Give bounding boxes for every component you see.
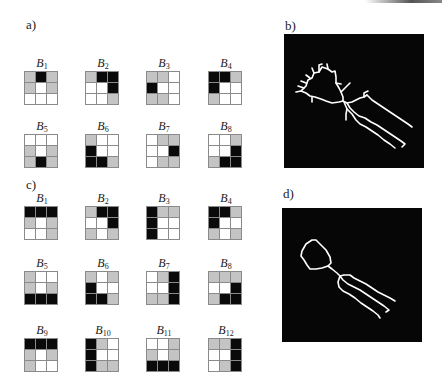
pixel-grid-3x3 [24, 134, 58, 168]
pixel-grid-3x3 [208, 338, 242, 372]
pixel-grid-3x3 [208, 134, 242, 168]
background-pixel [47, 135, 57, 145]
foreground-pixel [86, 294, 96, 304]
structuring-element-label: B2 [85, 57, 121, 70]
block-subscript: 1 [44, 62, 48, 71]
foreground-pixel [86, 283, 96, 293]
foreground-pixel [231, 350, 241, 360]
background-pixel [97, 229, 107, 239]
foreground-pixel [36, 294, 46, 304]
foreground-pixel [108, 72, 118, 82]
background-pixel [169, 94, 179, 104]
structuring-element-c-8: B8 [208, 257, 244, 305]
background-pixel [36, 146, 46, 156]
foreground-pixel [97, 157, 107, 167]
foreground-pixel [147, 229, 157, 239]
foreground-pixel [220, 207, 230, 217]
structuring-element-label: B6 [85, 257, 121, 270]
block-name: B [97, 119, 104, 133]
foreground-pixel [209, 207, 219, 217]
dont-care-pixel [108, 294, 118, 304]
foreground-pixel [97, 207, 107, 217]
background-pixel [36, 135, 46, 145]
dont-care-pixel [169, 350, 179, 360]
dont-care-pixel [47, 283, 57, 293]
structuring-element-c-11: B11 [146, 324, 182, 372]
structuring-element-label: B2 [85, 192, 121, 205]
dont-care-pixel [97, 361, 107, 371]
panel-d-pruned-skeleton-image [282, 208, 422, 342]
background-pixel [220, 283, 230, 293]
dont-care-pixel [47, 218, 57, 228]
structuring-element-c-1: B1 [24, 192, 60, 240]
dont-care-pixel [209, 229, 219, 239]
block-subscript: 6 [105, 262, 109, 271]
background-pixel [25, 94, 35, 104]
block-subscript: 9 [44, 329, 48, 338]
background-pixel [147, 339, 157, 349]
structuring-element-label: B8 [208, 120, 244, 133]
background-pixel [47, 361, 57, 371]
dont-care-pixel [108, 157, 118, 167]
background-pixel [209, 361, 219, 371]
background-pixel [169, 229, 179, 239]
dont-care-pixel [86, 272, 96, 282]
pixel-grid-3x3 [24, 338, 58, 372]
pixel-grid-3x3 [146, 206, 180, 240]
dont-care-pixel [147, 72, 157, 82]
structuring-element-c-6: B6 [85, 257, 121, 305]
dont-care-pixel [25, 350, 35, 360]
foreground-pixel [231, 339, 241, 349]
dont-care-pixel [47, 229, 57, 239]
background-pixel [169, 218, 179, 228]
background-pixel [158, 283, 168, 293]
block-subscript: 4 [228, 62, 232, 71]
dont-care-pixel [169, 339, 179, 349]
structuring-element-label: B9 [24, 324, 60, 337]
foreground-pixel [220, 294, 230, 304]
block-name: B [220, 191, 227, 205]
foreground-pixel [231, 157, 241, 167]
background-pixel [231, 218, 241, 228]
structuring-element-c-7: B7 [146, 257, 182, 305]
background-pixel [231, 94, 241, 104]
panel-label-a: a) [26, 17, 36, 33]
background-pixel [209, 146, 219, 156]
structuring-element-label: B1 [24, 57, 60, 70]
background-pixel [147, 135, 157, 145]
background-pixel [108, 339, 118, 349]
pruned-skeleton-graphic [282, 208, 422, 342]
foreground-pixel [231, 294, 241, 304]
block-subscript: 1 [44, 197, 48, 206]
dont-care-pixel [209, 94, 219, 104]
dont-care-pixel [25, 218, 35, 228]
block-name: B [97, 191, 104, 205]
dont-care-pixel [147, 294, 157, 304]
background-pixel [97, 83, 107, 93]
foreground-pixel [209, 72, 219, 82]
dont-care-pixel [25, 146, 35, 156]
foreground-pixel [47, 339, 57, 349]
background-pixel [36, 229, 46, 239]
structuring-element-c-9: B9 [24, 324, 60, 372]
background-pixel [36, 272, 46, 282]
background-pixel [86, 218, 96, 228]
block-name: B [156, 323, 163, 337]
pixel-grid-3x3 [146, 338, 180, 372]
foreground-pixel [147, 361, 157, 371]
dont-care-pixel [158, 94, 168, 104]
background-pixel [97, 135, 107, 145]
dont-care-pixel [25, 157, 35, 167]
foreground-pixel [220, 72, 230, 82]
structuring-element-a-6: B6 [85, 120, 121, 168]
structuring-element-label: B12 [208, 324, 244, 337]
foreground-pixel [25, 207, 35, 217]
block-name: B [220, 56, 227, 70]
structuring-element-label: B7 [146, 120, 182, 133]
background-pixel [147, 272, 157, 282]
background-pixel [97, 218, 107, 228]
dont-care-pixel [209, 294, 219, 304]
foreground-pixel [231, 361, 241, 371]
foreground-pixel [25, 294, 35, 304]
block-name: B [158, 191, 165, 205]
